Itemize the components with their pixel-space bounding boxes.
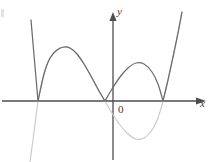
curve-primary-segment-1 [38,47,105,101]
graph-figure: y x 0 [0,0,209,162]
y-axis-label: y [117,6,122,17]
curve-secondary-segment-0 [30,101,38,162]
y-axis-arrow-icon [109,12,116,21]
curve-secondary-segment-2 [105,101,163,139]
curve-primary-segment-2 [105,63,163,101]
curve-primary-segment-0 [31,20,38,101]
x-axis-label: x [200,98,205,109]
plot-canvas [0,0,209,162]
curve-secondary-segment-1 [38,47,105,101]
origin-label: 0 [118,104,124,115]
curves-group [30,12,182,162]
curve-primary-segment-3 [163,12,182,101]
